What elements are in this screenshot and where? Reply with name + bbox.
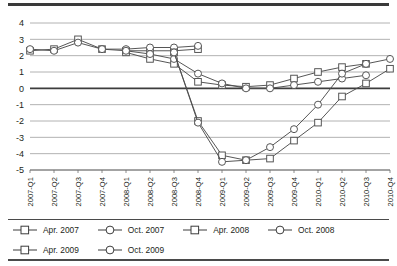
- data-point-marker: [315, 101, 322, 108]
- data-point-marker: [291, 137, 298, 144]
- y-axis-tick-label: 2: [19, 51, 24, 61]
- data-point-marker: [363, 72, 370, 79]
- data-point-marker: [195, 42, 202, 49]
- line-chart: 43210-1-2-3-4-52007-Q12007-Q22007-Q32007…: [0, 0, 397, 215]
- x-axis-tick-label: 2008-Q3: [170, 177, 179, 207]
- legend-item[interactable]: Apr. 2008: [182, 224, 249, 236]
- data-point-marker: [243, 157, 250, 164]
- data-point-marker: [315, 69, 322, 76]
- data-point-marker: [195, 70, 202, 77]
- x-axis-tick-label: 2008-Q2: [146, 177, 155, 207]
- data-point-marker: [387, 65, 394, 72]
- data-point-marker: [267, 155, 274, 162]
- legend-item-label: Apr. 2007: [43, 225, 79, 235]
- legend-circle-icon: [97, 244, 123, 256]
- chart-legend: Apr. 2007Oct. 2007Apr. 2008Oct. 2008 Apr…: [8, 219, 389, 261]
- legend-square-icon: [182, 224, 208, 236]
- data-point-marker: [339, 93, 346, 100]
- series-line: [174, 52, 390, 161]
- data-point-marker: [99, 46, 106, 53]
- data-point-marker: [339, 70, 346, 77]
- legend-circle-icon: [97, 224, 123, 236]
- y-axis-tick-label: 3: [19, 35, 24, 45]
- legend-square-icon: [12, 224, 38, 236]
- data-point-marker: [291, 82, 298, 89]
- data-point-marker: [315, 119, 322, 126]
- legend-item[interactable]: Apr. 2007: [12, 224, 79, 236]
- x-axis-tick-label: 2009-Q4: [290, 177, 299, 207]
- x-axis-tick-label: 2010-Q4: [386, 177, 395, 207]
- data-point-marker: [291, 126, 298, 133]
- data-point-marker: [219, 158, 226, 165]
- legend-item[interactable]: Oct. 2007: [97, 224, 164, 236]
- data-point-marker: [147, 44, 154, 51]
- data-point-marker: [267, 144, 274, 151]
- legend-item-label: Oct. 2009: [128, 245, 164, 255]
- data-point-marker: [27, 46, 34, 53]
- data-point-marker: [123, 47, 130, 54]
- data-point-marker: [75, 39, 82, 46]
- x-axis-tick-label: 2010-Q3: [362, 177, 371, 207]
- data-point-marker: [363, 80, 370, 87]
- x-axis-tick-label: 2007-Q4: [98, 177, 107, 207]
- data-point-marker: [291, 75, 298, 82]
- data-point-marker: [387, 55, 394, 62]
- x-axis-tick-label: 2007-Q3: [74, 177, 83, 207]
- legend-row: Apr. 2007Oct. 2007Apr. 2008Oct. 2008: [8, 220, 389, 240]
- data-point-marker: [195, 79, 202, 86]
- y-axis-tick-label: 1: [19, 67, 24, 77]
- data-point-marker: [243, 85, 250, 92]
- series-line: [174, 52, 390, 160]
- y-axis-tick-label: -5: [16, 165, 24, 175]
- y-axis-tick-label: -4: [16, 149, 24, 159]
- x-axis-tick-label: 2009-Q1: [218, 177, 227, 207]
- legend-row: Apr. 2009Oct. 2009: [8, 240, 389, 260]
- series-oct-2008: [123, 47, 370, 92]
- chart-plot-area: 43210-1-2-3-4-52007-Q12007-Q22007-Q32007…: [0, 0, 397, 215]
- legend-item[interactable]: Oct. 2008: [267, 224, 334, 236]
- x-axis-tick-label: 2008-Q4: [194, 177, 203, 207]
- legend-item-label: Apr. 2008: [213, 225, 249, 235]
- y-axis-tick-label: -3: [16, 133, 24, 143]
- data-point-marker: [363, 60, 370, 67]
- y-axis-tick-label: -2: [16, 116, 24, 126]
- data-point-marker: [171, 49, 178, 56]
- x-axis-tick-label: 2007-Q2: [50, 177, 59, 207]
- legend-item-label: Oct. 2008: [298, 225, 334, 235]
- series-oct-2009: [171, 49, 394, 165]
- data-point-marker: [339, 64, 346, 71]
- legend-item-label: Apr. 2009: [43, 245, 79, 255]
- y-axis-tick-label: 4: [19, 18, 24, 28]
- x-axis-tick-label: 2010-Q1: [314, 177, 323, 207]
- data-point-marker: [51, 47, 58, 54]
- data-point-marker: [267, 85, 274, 92]
- legend-item[interactable]: Apr. 2009: [12, 244, 79, 256]
- y-axis-tick-label: -1: [16, 100, 24, 110]
- x-axis-tick-label: 2009-Q2: [242, 177, 251, 207]
- legend-circle-icon: [267, 224, 293, 236]
- data-point-marker: [315, 78, 322, 85]
- x-axis-tick-label: 2007-Q1: [26, 177, 35, 207]
- y-axis-tick-label: 0: [19, 84, 24, 94]
- series-line: [126, 52, 366, 86]
- data-point-marker: [195, 119, 202, 126]
- chart-page: 43210-1-2-3-4-52007-Q12007-Q22007-Q32007…: [0, 0, 397, 266]
- data-point-marker: [219, 80, 226, 87]
- x-axis-tick-label: 2008-Q1: [122, 177, 131, 207]
- legend-item[interactable]: Oct. 2009: [97, 244, 164, 256]
- legend-square-icon: [12, 244, 38, 256]
- x-axis-tick-label: 2010-Q2: [338, 177, 347, 207]
- data-point-marker: [147, 51, 154, 58]
- legend-item-label: Oct. 2007: [128, 225, 164, 235]
- x-axis-tick-label: 2009-Q3: [266, 177, 275, 207]
